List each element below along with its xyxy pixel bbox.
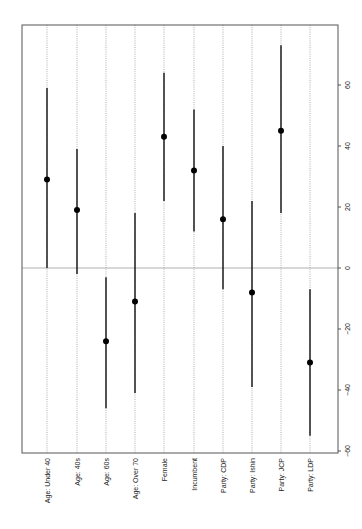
estimate-point bbox=[44, 177, 50, 183]
category-label: Party: Ishin bbox=[249, 458, 257, 493]
estimate-point bbox=[191, 167, 197, 173]
tick-label: −20 bbox=[344, 323, 351, 335]
tick-label: 40 bbox=[344, 142, 351, 150]
confidence-intervals bbox=[47, 45, 310, 435]
category-gridlines bbox=[47, 25, 310, 453]
category-label: Age: Under 40 bbox=[44, 458, 52, 503]
estimate-point bbox=[278, 128, 284, 134]
category-label: Incumbent bbox=[191, 458, 198, 491]
tick-label: −40 bbox=[344, 384, 351, 396]
category-label: Party: CDP bbox=[220, 458, 228, 493]
point-estimates bbox=[44, 128, 313, 366]
estimate-point bbox=[132, 299, 138, 305]
category-label: Age: 60s bbox=[103, 458, 111, 486]
tick-label: −60 bbox=[344, 445, 351, 457]
tick-label: 60 bbox=[344, 81, 351, 89]
tick-label: 20 bbox=[344, 203, 351, 211]
estimate-point bbox=[103, 338, 109, 344]
estimate-point bbox=[307, 360, 313, 366]
estimate-point bbox=[249, 289, 255, 295]
category-label: Party: LDP bbox=[307, 458, 315, 492]
category-axis-labels: Age: Under 40Age: 40sAge: 60sAge: Over 7… bbox=[44, 458, 315, 504]
value-axis: 6040200−20−40−60 bbox=[338, 81, 351, 457]
plot-frame bbox=[22, 25, 338, 453]
estimate-point bbox=[220, 216, 226, 222]
category-label: Party: JCP bbox=[278, 458, 286, 492]
estimate-point bbox=[74, 207, 80, 213]
tick-label: 0 bbox=[344, 266, 351, 270]
category-label: Age: 40s bbox=[74, 458, 82, 486]
category-label: Female bbox=[161, 458, 168, 481]
estimate-point bbox=[161, 134, 167, 140]
category-label: Age: Over 70 bbox=[132, 458, 140, 499]
coefficient-plot: 6040200−20−40−60 Age: Under 40Age: 40sAg… bbox=[0, 0, 362, 529]
